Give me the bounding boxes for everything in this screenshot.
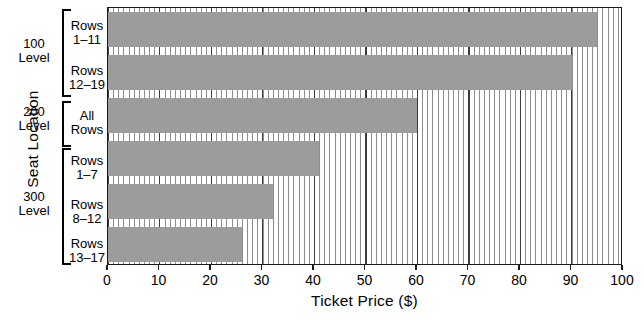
group-label-200-line1: 200 [12,105,56,119]
x-tick-label-30: 30 [242,272,282,288]
x-tick-70 [467,265,469,270]
x-tick-label-40: 40 [293,272,333,288]
row-label-3-line2: 1–7 [68,168,106,182]
x-tick-30 [261,265,263,270]
x-tick-100 [621,265,623,270]
x-tick-label-0: 0 [87,272,127,288]
row-label-4-line2: 8–12 [68,212,106,226]
group-label-300-level: 300 Level [12,190,56,218]
x-tick-10 [158,265,160,270]
row-label-200-all-rows: All Rows [68,109,106,137]
x-tick-20 [209,265,211,270]
row-label-3-line1: Rows [68,154,106,168]
group-label-200-level: 200 Level [12,105,56,133]
x-tick-40 [312,265,314,270]
row-label-1-line2: 12–19 [68,78,106,92]
bar-chart: Seat Location 100 Level 200 Level 300 Le… [0,0,644,320]
x-tick-label-10: 10 [139,272,179,288]
group-label-100-line2: Level [12,51,56,65]
bar-1 [108,55,572,90]
row-label-300-rows-1-7: Rows 1–7 [68,154,106,182]
row-label-0-line2: 1–11 [68,33,106,47]
group-label-200-line2: Level [12,119,56,133]
x-tick-90 [570,265,572,270]
row-label-5-line1: Rows [68,237,106,251]
x-tick-label-60: 60 [396,272,436,288]
x-axis-title: Ticket Price ($) [107,292,622,310]
row-label-300-rows-8-12: Rows 8–12 [68,198,106,226]
group-label-100-line1: 100 [12,37,56,51]
x-tick-label-100: 100 [602,272,642,288]
row-label-100-rows-1-11: Rows 1–11 [68,19,106,47]
x-tick-label-50: 50 [345,272,385,288]
row-label-1-line1: Rows [68,64,106,78]
x-tick-label-70: 70 [448,272,488,288]
bar-3 [108,141,319,176]
x-tick-label-90: 90 [551,272,591,288]
row-label-2-line2: Rows [68,123,106,137]
bar-2 [108,98,417,133]
row-label-0-line1: Rows [68,19,106,33]
row-label-100-rows-12-19: Rows 12–19 [68,64,106,92]
x-tick-label-80: 80 [499,272,539,288]
group-label-300-line1: 300 [12,190,56,204]
row-label-2-line1: All [68,109,106,123]
bar-4 [108,184,273,219]
x-tick-60 [415,265,417,270]
x-tick-80 [518,265,520,270]
x-tick-50 [364,265,366,270]
group-label-300-line2: Level [12,204,56,218]
row-label-5-line2: 13–17 [68,251,106,265]
row-label-300-rows-13-17: Rows 13–17 [68,237,106,265]
x-tick-label-20: 20 [190,272,230,288]
group-label-100-level: 100 Level [12,37,56,65]
plot-area [107,7,622,265]
bar-5 [108,227,242,262]
row-label-4-line1: Rows [68,198,106,212]
x-tick-0 [106,265,108,270]
bar-0 [108,12,597,47]
